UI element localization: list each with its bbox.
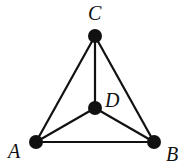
- node-c: [88, 29, 102, 43]
- label-a: A: [6, 140, 21, 162]
- k4-graph-diagram: A B C D: [0, 0, 193, 167]
- label-c: C: [88, 2, 102, 24]
- node-d: [88, 101, 102, 115]
- edges: [36, 36, 154, 142]
- label-b: B: [166, 143, 178, 165]
- node-a: [29, 135, 43, 149]
- node-b: [147, 135, 161, 149]
- label-d: D: [104, 89, 120, 111]
